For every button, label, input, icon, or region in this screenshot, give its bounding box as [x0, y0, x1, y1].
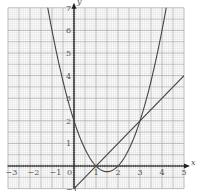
x-tick-label: −2 [28, 168, 40, 177]
x-axis-label: x [191, 158, 196, 167]
y-tick-label: 5 [66, 49, 71, 58]
x-tick-label: 4 [160, 168, 165, 177]
y-tick-label: 1 [66, 139, 71, 148]
y-tick-label: 4 [66, 72, 71, 81]
y-axis-label: y [76, 0, 82, 6]
x-tick-label: 2 [116, 168, 121, 177]
x-tick-label: −3 [6, 168, 18, 177]
x-tick-label: 1 [94, 168, 99, 177]
x-tick-label: −1 [50, 168, 62, 177]
x-tick-label: 3 [138, 168, 143, 177]
y-tick-label: 6 [66, 26, 71, 35]
y-tick-label: 7 [66, 4, 71, 13]
grid [8, 8, 184, 189]
tick-labels: −3−2−1012345−11234567xy [6, 0, 197, 191]
x-tick-label: 0 [67, 168, 72, 177]
y-tick-label: 2 [66, 117, 71, 126]
graph: −3−2−1012345−11234567xy [0, 0, 196, 191]
y-tick-label: −1 [66, 185, 78, 191]
y-tick-label: 3 [66, 94, 71, 103]
x-tick-label: 5 [182, 168, 187, 177]
